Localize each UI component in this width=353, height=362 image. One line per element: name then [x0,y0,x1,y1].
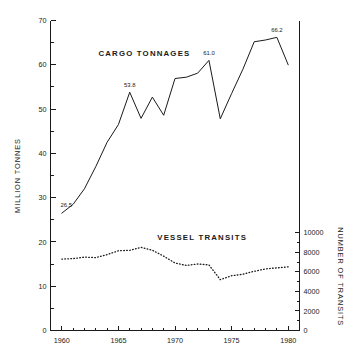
data-point-label: 61.0 [203,50,215,56]
x-tick-label: 1980 [280,336,296,345]
series-name-labels: CARGO TONNAGESVESSEL TRANSITS [98,49,247,242]
left-tick-label: 40 [39,149,47,158]
left-tick-label: 30 [39,193,47,202]
right-tick-label: 4000 [304,287,320,296]
axes-group [51,21,300,331]
series-label-vessel-transits: VESSEL TRANSITS [157,233,247,242]
right-tick-label: 10000 [304,228,324,237]
chart-svg: 010203040506070 0200040006000800010000 1… [0,0,353,362]
left-tick-label: 50 [39,105,47,114]
series-line-vessel-transits [62,247,288,279]
series-label-cargo-tonnages: CARGO TONNAGES [98,49,190,58]
right-tick-label: 0 [304,326,308,335]
left-tick-label: 0 [43,326,47,335]
x-tick-label: 1975 [224,336,240,345]
x-tick-label: 1960 [54,336,70,345]
x-tick-label: 1965 [110,336,126,345]
left-tick-label: 60 [39,60,47,69]
x-axis-tick-labels: 19601965197019751980 [54,336,296,345]
left-tick-label: 20 [39,238,47,247]
left-tick-label: 10 [39,282,47,291]
right-axis-ticks [295,233,300,331]
bottom-axis-ticks [62,326,288,331]
y2-axis-title: NUMBER OF TRANSITS [336,227,345,326]
left-axis-tick-labels: 010203040506070 [39,16,47,335]
right-tick-label: 6000 [304,267,320,276]
y-axis-title: MILLION TONNES [13,138,22,213]
left-axis-ticks [51,21,56,331]
right-tick-label: 8000 [304,248,320,257]
data-point-label: 53.8 [124,82,136,88]
left-tick-label: 70 [39,16,47,25]
data-series-group [62,37,288,279]
data-point-label: 66.2 [271,27,282,33]
right-tick-label: 2000 [304,307,320,316]
right-axis-tick-labels: 0200040006000800010000 [304,228,324,335]
series-line-cargo-tonnages [62,37,288,213]
chart-figure: 010203040506070 0200040006000800010000 1… [0,0,353,362]
x-tick-label: 1970 [167,336,183,345]
axis-titles: MILLION TONNESNUMBER OF TRANSITS [13,138,345,326]
data-point-label: 26.5 [61,202,73,208]
